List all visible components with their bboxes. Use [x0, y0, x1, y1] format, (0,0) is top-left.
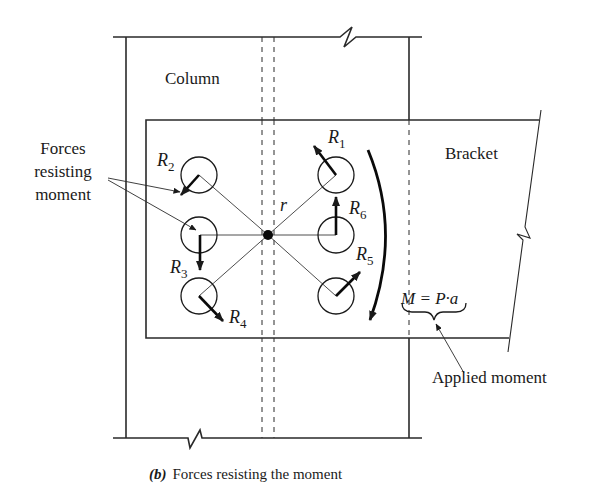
centroid-dot	[263, 230, 273, 240]
bracket-connection-diagram: Column Bracket Forces resisting moment r…	[0, 0, 599, 503]
column-label: Column	[165, 69, 220, 88]
figure-caption: (b)Forces resisting the moment	[149, 466, 343, 483]
svg-text:Forces: Forces	[40, 139, 85, 158]
radius-label: r	[280, 195, 288, 215]
column-top-break-line	[113, 27, 422, 47]
svg-text:resisting: resisting	[34, 162, 92, 181]
moment-equation: M = P·a	[400, 289, 458, 308]
applied-moment-label: Applied moment	[432, 368, 547, 387]
forces-resisting-label: Forces resisting moment	[34, 139, 92, 204]
column-bottom-break-line	[113, 430, 422, 448]
bracket-label: Bracket	[445, 144, 498, 163]
svg-text:moment: moment	[35, 185, 91, 204]
